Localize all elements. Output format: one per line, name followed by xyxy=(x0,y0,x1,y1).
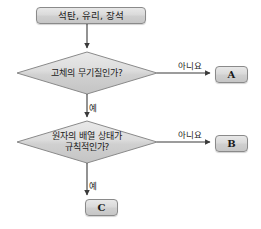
decision-1-diamond[interactable] xyxy=(17,52,157,94)
start-box-label: 석탄, 유리, 장석 xyxy=(58,11,124,21)
decision-2-yes-label: 예 xyxy=(89,182,97,191)
connector-layer xyxy=(0,0,261,229)
decision-1-yes-label: 예 xyxy=(89,104,97,113)
result-box-b-label: B xyxy=(227,139,235,149)
result-box-b[interactable]: B xyxy=(215,135,248,152)
decision-1-no-label: 아니요 xyxy=(178,62,202,71)
result-box-a[interactable]: A xyxy=(215,66,248,83)
result-box-a-label: A xyxy=(228,70,236,80)
result-box-c[interactable]: C xyxy=(85,199,118,216)
flowchart-canvas: 석탄, 유리, 장석 고체의 무기질인가? 원자의 배열 상태가 규칙적인가? … xyxy=(0,0,261,229)
decision-2-no-label: 아니요 xyxy=(178,131,202,140)
start-box[interactable]: 석탄, 유리, 장석 xyxy=(36,7,146,24)
result-box-c-label: C xyxy=(98,203,106,213)
decision-2-diamond[interactable] xyxy=(17,121,157,163)
